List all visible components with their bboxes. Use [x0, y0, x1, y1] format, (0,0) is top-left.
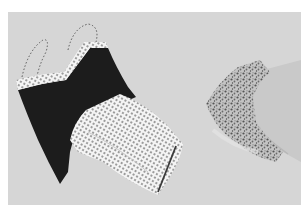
product-photo	[8, 12, 301, 205]
clothing-illustration	[8, 12, 301, 205]
